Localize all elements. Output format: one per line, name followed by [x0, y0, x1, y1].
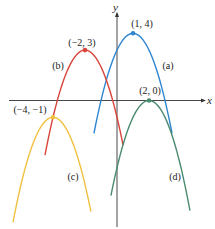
curve-label-a: (a) [162, 60, 173, 72]
vertex-point-c [51, 115, 56, 120]
vertex-label-a: (1, 4) [131, 18, 153, 30]
vertex-label-c: (−4, −1) [14, 104, 47, 116]
vertex-point-b [83, 48, 88, 53]
y-axis-label: y [112, 1, 118, 13]
curve-label-b: (b) [52, 60, 64, 72]
vertex-label-b: (−2, 3) [68, 37, 95, 49]
curve-label-c: (c) [67, 171, 78, 183]
x-axis-label: x [206, 94, 212, 106]
vertex-point-a [131, 31, 136, 36]
curve-c [13, 117, 91, 222]
parabola-chart: x y (a) (b) (c) (d) (1, 4) (−2, 3) (−4, … [0, 0, 215, 229]
curve-label-d: (d) [169, 171, 181, 183]
vertex-point-d [147, 98, 152, 103]
curve-d [111, 101, 190, 211]
vertex-label-d: (2, 0) [139, 85, 161, 97]
